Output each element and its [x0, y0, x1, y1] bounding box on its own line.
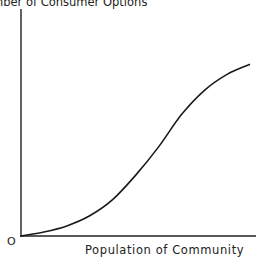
chart: mber of Consumer Options O Population of…: [0, 0, 261, 265]
series-line-0: [21, 64, 250, 236]
origin-label: O: [7, 235, 16, 248]
x-axis-label: Population of Community: [85, 243, 244, 257]
y-axis-label: mber of Consumer Options: [0, 0, 147, 9]
